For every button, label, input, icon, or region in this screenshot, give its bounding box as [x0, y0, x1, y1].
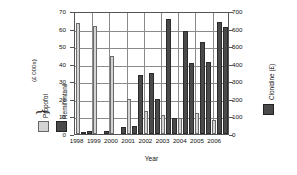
y-tick-right: 100 [232, 114, 254, 120]
x-axis-title: Year [74, 155, 229, 162]
y-tick-right: 400 [232, 62, 254, 68]
y-tickmark-right [229, 47, 233, 48]
y-tick-right: 500 [232, 44, 254, 50]
bar-group [92, 13, 109, 134]
bar-clonidine-2001 [138, 75, 143, 134]
bar-group [126, 13, 143, 134]
bar-clonidine-1998 [87, 131, 92, 134]
y-tickmark-right [229, 82, 233, 83]
bar-remifentanil-1998 [81, 132, 86, 134]
bar-group [194, 13, 211, 134]
y-tickmark-right [229, 65, 233, 66]
bar-clonidine-2002 [155, 99, 160, 134]
bar-remifentanil-2001 [132, 126, 137, 134]
bar-group [177, 13, 194, 134]
legend-swatch-propofol [38, 121, 49, 132]
bar-propofol-2003 [161, 115, 166, 134]
legend-label-clonidine: Clonidine (£) [268, 64, 275, 100]
bar-propofol-2005 [195, 113, 200, 134]
legend-units-label: (£ 000s) [30, 59, 37, 82]
bar-propofol-1999 [93, 26, 98, 134]
bar-group [211, 13, 228, 134]
bar-group [160, 13, 177, 134]
bar-clonidine-1999 [104, 131, 109, 134]
y-tick-left: 30 [48, 79, 66, 85]
bar-remifentanil-2004 [183, 31, 188, 134]
y-tickmark-right [229, 100, 233, 101]
bar-remifentanil-2002 [149, 73, 154, 134]
y-tick-left: 40 [48, 62, 66, 68]
bar-propofol-1998 [76, 23, 81, 134]
y-tickmark-right [229, 12, 233, 13]
bar-propofol-2000 [110, 56, 115, 134]
y-tick-right: 200 [232, 97, 254, 103]
bar-propofol-2001 [127, 99, 132, 134]
y-tick-right: 600 [232, 27, 254, 33]
y-tick-right: 0 [232, 132, 254, 138]
y-tick-left: 60 [48, 27, 66, 33]
y-tick-left: 0 [48, 132, 66, 138]
y-tick-right: 300 [232, 79, 254, 85]
bar-clonidine-2004 [189, 63, 194, 134]
bar-clonidine-2006 [223, 27, 228, 134]
y-tickmark-right [229, 117, 233, 118]
y-tick-left: 70 [48, 9, 66, 15]
bar-clonidine-2000 [121, 127, 126, 134]
plot-area [74, 12, 229, 135]
y-tickmark-right [229, 135, 233, 136]
bar-propofol-2004 [178, 118, 183, 134]
legend-swatch-clonidine [263, 104, 274, 115]
bar-group [143, 13, 160, 134]
bar-propofol-2006 [212, 120, 217, 134]
x-tick-label: 2006 [203, 137, 225, 144]
bar-propofol-2002 [144, 111, 149, 134]
bar-remifentanil-2005 [200, 42, 205, 134]
y-tick-left: 10 [48, 114, 66, 120]
bar-chart: } (£ 000s) Propofol Remifentanil Clonidi… [0, 0, 297, 175]
y-tick-left: 20 [48, 97, 66, 103]
bar-remifentanil-2006 [217, 22, 222, 134]
y-tick-right: 700 [232, 9, 254, 15]
y-tickmark-right [229, 30, 233, 31]
bar-clonidine-2005 [206, 62, 211, 134]
bar-group [109, 13, 126, 134]
legend-right: Clonidine (£) [258, 18, 296, 138]
bar-clonidine-2003 [172, 118, 177, 134]
bar-group [75, 13, 92, 134]
y-tickmark-left [70, 135, 74, 136]
y-tick-left: 50 [48, 44, 66, 50]
bar-remifentanil-2003 [166, 19, 171, 134]
